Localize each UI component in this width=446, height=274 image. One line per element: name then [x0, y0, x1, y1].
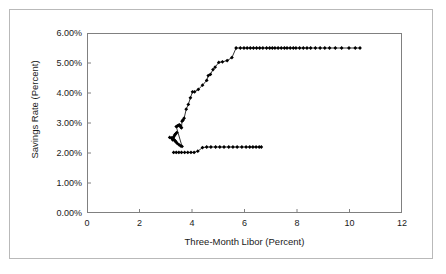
data-point	[323, 46, 327, 50]
x-tick-label: 8	[282, 218, 312, 228]
y-tick-label: 3.00%	[38, 118, 82, 128]
y-tick-label: 4.00%	[38, 88, 82, 98]
data-point	[294, 46, 298, 50]
data-point	[234, 46, 238, 50]
data-point	[235, 145, 239, 149]
x-tick-label: 2	[125, 218, 155, 228]
x-tick-label: 10	[335, 218, 365, 228]
data-point	[358, 46, 362, 50]
data-point	[298, 46, 302, 50]
data-point	[333, 46, 337, 50]
data-point	[214, 145, 218, 149]
data-point	[205, 145, 209, 149]
data-point	[189, 96, 193, 100]
data-point	[261, 46, 265, 50]
x-tick-label: 6	[230, 218, 260, 228]
data-point	[221, 60, 225, 64]
data-point	[328, 46, 332, 50]
data-point	[347, 46, 351, 50]
data-point	[184, 107, 188, 111]
data-point	[227, 145, 231, 149]
figure-root: 0.00%1.00%2.00%3.00%4.00%5.00%6.00% 0246…	[0, 0, 446, 274]
tick-marks	[87, 63, 350, 213]
y-axis-title: Savings Rate (Percent)	[29, 50, 40, 170]
data-point	[192, 151, 196, 155]
data-point	[244, 145, 248, 149]
y-tick-label: 1.00%	[38, 178, 82, 188]
data-point	[318, 46, 322, 50]
data-point	[240, 145, 244, 149]
data-point	[225, 59, 229, 63]
data-point	[309, 46, 313, 50]
data-point	[186, 103, 190, 107]
chart-canvas	[87, 33, 402, 213]
data-point	[218, 145, 222, 149]
data-point	[313, 46, 317, 50]
x-axis-title: Three-Month Libor (Percent)	[87, 236, 402, 247]
data-series-layer	[168, 46, 362, 154]
series-line-0	[170, 48, 360, 146]
x-tick-label: 0	[72, 218, 102, 228]
y-tick-label: 2.00%	[38, 148, 82, 158]
data-point	[340, 46, 344, 50]
data-point	[231, 145, 235, 149]
y-tick-label: 5.00%	[38, 58, 82, 68]
data-point	[301, 46, 305, 50]
data-point	[259, 145, 263, 149]
data-point	[305, 46, 309, 50]
y-tick-label: 6.00%	[38, 28, 82, 38]
data-point	[222, 145, 226, 149]
data-point	[353, 46, 357, 50]
data-point	[209, 145, 213, 149]
y-tick-label: 0.00%	[38, 208, 82, 218]
x-tick-label: 4	[177, 218, 207, 228]
data-point	[230, 56, 234, 60]
data-point	[238, 46, 242, 50]
x-tick-label: 12	[387, 218, 417, 228]
